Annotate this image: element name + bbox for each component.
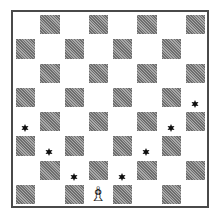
square-a1: [13, 182, 37, 206]
square-d3: [86, 133, 110, 157]
square-f4: [134, 109, 158, 133]
square-a7: [13, 36, 37, 60]
square-e7: [110, 36, 134, 60]
square-d4: [86, 109, 110, 133]
square-b8: [37, 12, 61, 36]
square-a3: [13, 133, 37, 157]
square-d1: ♗: [86, 182, 110, 206]
square-g8: [159, 12, 183, 36]
square-e5: [110, 85, 134, 109]
square-f7: [134, 36, 158, 60]
square-a6: [13, 61, 37, 85]
square-e8: [110, 12, 134, 36]
square-b6: [37, 61, 61, 85]
square-d6: [86, 61, 110, 85]
square-h3: [183, 133, 207, 157]
square-b1: [37, 182, 61, 206]
square-h7: [183, 36, 207, 60]
square-f1: [134, 182, 158, 206]
square-c1: [62, 182, 86, 206]
square-a2: [13, 158, 37, 182]
square-g6: [159, 61, 183, 85]
square-g2: [159, 158, 183, 182]
square-g7: [159, 36, 183, 60]
star-icon: [70, 166, 78, 174]
star-icon: [118, 166, 126, 174]
square-g5: [159, 85, 183, 109]
square-a5: [13, 85, 37, 109]
square-g3: [159, 133, 183, 157]
star-icon: [21, 117, 29, 125]
square-c7: [62, 36, 86, 60]
square-f5: [134, 85, 158, 109]
square-c5: [62, 85, 86, 109]
square-e2: [110, 158, 134, 182]
square-d5: [86, 85, 110, 109]
square-e1: [110, 182, 134, 206]
square-d7: [86, 36, 110, 60]
square-c2: [62, 158, 86, 182]
square-b7: [37, 36, 61, 60]
square-c4: [62, 109, 86, 133]
square-e3: [110, 133, 134, 157]
square-g1: [159, 182, 183, 206]
square-h5: [183, 85, 207, 109]
square-b5: [37, 85, 61, 109]
square-e4: [110, 109, 134, 133]
square-a4: [13, 109, 37, 133]
square-b3: [37, 133, 61, 157]
square-c3: [62, 133, 86, 157]
square-h4: [183, 109, 207, 133]
square-f8: [134, 12, 158, 36]
square-f6: [134, 61, 158, 85]
star-icon: [167, 117, 175, 125]
square-d2: [86, 158, 110, 182]
square-e6: [110, 61, 134, 85]
square-h2: [183, 158, 207, 182]
square-g4: [159, 109, 183, 133]
star-icon: [45, 141, 53, 149]
star-icon: [142, 141, 150, 149]
square-c6: [62, 61, 86, 85]
square-f3: [134, 133, 158, 157]
square-h1: [183, 182, 207, 206]
square-b2: [37, 158, 61, 182]
square-h8: [183, 12, 207, 36]
square-h6: [183, 61, 207, 85]
square-c8: [62, 12, 86, 36]
white-bishop-icon: ♗: [89, 184, 107, 204]
chessboard: ♗: [11, 10, 209, 208]
star-icon: [191, 93, 199, 101]
square-d8: [86, 12, 110, 36]
square-b4: [37, 109, 61, 133]
square-f2: [134, 158, 158, 182]
square-a8: [13, 12, 37, 36]
